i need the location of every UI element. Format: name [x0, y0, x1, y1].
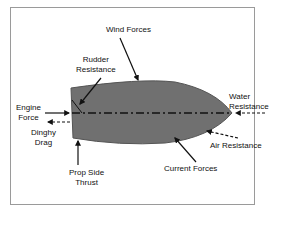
- label-dinghy-line1: Dinghy: [31, 128, 56, 138]
- label-rudder-line1: Rudder: [76, 55, 116, 65]
- label-engine-line1: Engine: [16, 103, 41, 113]
- label-prop-line2: Thrust: [69, 178, 104, 188]
- current-forces-arrow: [175, 138, 196, 162]
- label-engine-force: Engine Force: [16, 103, 41, 123]
- label-rudder-line2: Resistance: [76, 65, 116, 75]
- wind-forces-arrow: [120, 38, 138, 80]
- label-prop-side-thrust: Prop Side Thrust: [69, 168, 104, 188]
- label-dinghy-line2: Drag: [31, 138, 56, 148]
- label-current-forces: Current Forces: [164, 164, 217, 174]
- air-resistance-arrow: [207, 131, 238, 138]
- label-air-resistance: Air Resistance: [210, 141, 262, 151]
- boat-hull: [71, 81, 232, 144]
- label-engine-line2: Force: [16, 113, 41, 123]
- label-wind-forces: Wind Forces: [106, 25, 151, 35]
- label-water-line1: Water: [229, 92, 269, 102]
- label-dinghy-drag: Dinghy Drag: [31, 128, 56, 148]
- label-water-resistance: Water Resistance: [229, 92, 269, 112]
- label-prop-line1: Prop Side: [69, 168, 104, 178]
- label-rudder-resistance: Rudder Resistance: [76, 55, 116, 75]
- label-water-line2: Resistance: [229, 102, 269, 112]
